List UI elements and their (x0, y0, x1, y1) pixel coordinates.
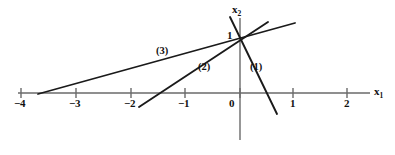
x-axis-label: x1 (374, 86, 383, 100)
x-tick-label-minus4: −4 (14, 98, 25, 109)
x-tick-label-zero: 0 (229, 98, 234, 109)
series-label-3: (3) (156, 46, 168, 57)
y-tick-label-one: 1 (227, 30, 233, 41)
x-tick-label-one: 1 (290, 98, 295, 109)
x-axis-label-subscript: 1 (380, 91, 384, 100)
x-tick-label-minus3: −3 (69, 98, 80, 109)
y-axis-label: x2 (232, 4, 241, 18)
x-tick-label-minus1: −1 (178, 98, 189, 109)
x-tick-label-minus2: −2 (124, 98, 135, 109)
figure-canvas: −4 −3 −2 −1 0 1 2 1 x1 x2 (3) (2) (1) (0, 0, 395, 155)
series-label-2: (2) (198, 62, 210, 73)
y-axis-label-subscript: 2 (238, 9, 242, 18)
plot-area (0, 0, 395, 155)
constraint-line-3 (38, 23, 295, 94)
series-label-1: (1) (250, 62, 262, 73)
x-tick-label-two: 2 (344, 98, 349, 109)
